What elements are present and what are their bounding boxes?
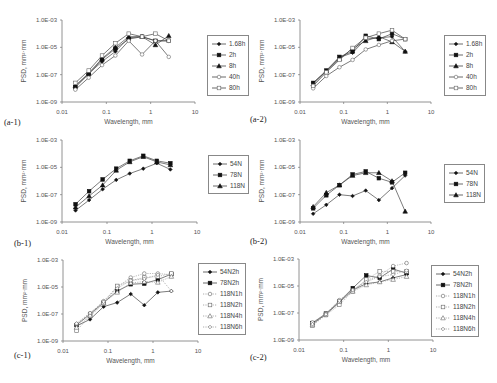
legend-label: 78N2h bbox=[453, 281, 472, 288]
legend-item: 78N2h bbox=[435, 279, 475, 290]
circle-marker-icon bbox=[87, 76, 91, 80]
legend-swatch-icon bbox=[435, 270, 451, 278]
x-tick-label: 10 bbox=[428, 109, 435, 115]
x-tick-label: 1 bbox=[151, 348, 155, 354]
legend-swatch-icon bbox=[202, 301, 218, 309]
square-marker-icon bbox=[441, 305, 445, 309]
legend-label: 54N bbox=[466, 169, 478, 176]
legend-label: 80h bbox=[229, 84, 240, 91]
legend: 54N2h78N2h118N1h118N2h118N4h118N6h bbox=[431, 265, 479, 337]
legend-label: 118N4h bbox=[220, 312, 242, 319]
circle-marker-icon bbox=[324, 74, 328, 78]
square-marker-icon bbox=[390, 32, 394, 36]
series-118N bbox=[311, 170, 408, 213]
square-marker-icon bbox=[454, 53, 458, 57]
chart-panel-b-2: 1.0E-031.0E-051.0E-071.0E-090.010.1110Wa… bbox=[248, 125, 496, 250]
legend: 54N2h78N2h118N1h118N2h118N4h118N6h bbox=[198, 263, 246, 335]
x-tick-label: 1 bbox=[386, 109, 390, 115]
circle-marker-icon bbox=[74, 88, 78, 92]
legend-swatch-icon bbox=[448, 169, 464, 177]
legend-label: 118N2h bbox=[220, 301, 242, 308]
square-marker-icon bbox=[351, 46, 355, 50]
square-marker-icon bbox=[324, 70, 328, 74]
legend-item: 118N4h bbox=[202, 310, 242, 321]
circle-marker-icon bbox=[351, 58, 355, 62]
legend-swatch-icon bbox=[448, 51, 464, 59]
legend-item: 118N bbox=[212, 180, 245, 191]
circle-marker-icon bbox=[364, 48, 368, 52]
legend-label: 54N2h bbox=[453, 270, 472, 277]
x-tick-label: 0.1 bbox=[102, 109, 111, 115]
legend-label: 2h bbox=[466, 51, 473, 58]
legend-swatch-icon bbox=[211, 51, 227, 59]
chart-panel-a-2: 1.0E-031.0E-051.0E-071.0E-090.010.1110Wa… bbox=[248, 0, 496, 125]
legend-label: 2h bbox=[229, 51, 236, 58]
circle-marker-icon bbox=[441, 294, 445, 298]
legend-swatch-icon bbox=[448, 62, 464, 70]
legend-swatch-icon bbox=[448, 180, 464, 188]
triangle-marker-icon bbox=[324, 190, 329, 194]
y-tick-label: 1.0E-09 bbox=[273, 337, 295, 343]
diamond-marker-icon bbox=[208, 325, 212, 329]
y-tick-label: 1.0E-07 bbox=[273, 310, 295, 316]
circle-marker-icon bbox=[217, 75, 221, 79]
legend-swatch-icon bbox=[435, 325, 451, 333]
legend-label: 80h bbox=[466, 84, 477, 91]
circle-marker-icon bbox=[377, 43, 381, 47]
legend-swatch-icon bbox=[435, 292, 451, 300]
legend-label: 54N bbox=[230, 160, 242, 167]
legend-label: 78N bbox=[230, 171, 242, 178]
legend-label: 1.68h bbox=[229, 40, 245, 47]
legend-item: 118N2h bbox=[435, 301, 475, 312]
legend-swatch-icon bbox=[448, 191, 464, 199]
diamond-marker-icon bbox=[208, 270, 212, 274]
chart-panel-b-1: 1.0E-031.0E-051.0E-071.0E-090.010.1110Wa… bbox=[0, 125, 248, 250]
panel-label: (a-2) bbox=[250, 114, 267, 124]
square-marker-icon bbox=[311, 84, 315, 88]
legend-label: 118N bbox=[230, 182, 245, 189]
series-54N2h bbox=[75, 289, 173, 327]
legend-swatch-icon bbox=[202, 290, 218, 298]
legend-label: 118N1h bbox=[453, 292, 475, 299]
legend-item: 54N bbox=[448, 167, 481, 178]
legend-swatch-icon bbox=[211, 40, 227, 48]
x-tick-label: 0.01 bbox=[294, 229, 306, 235]
y-tick-label: 1.0E-03 bbox=[36, 17, 58, 23]
legend-item: 40h bbox=[211, 71, 245, 82]
x-tick-label: 10 bbox=[192, 109, 199, 115]
legend-swatch-icon bbox=[448, 40, 464, 48]
diamond-marker-icon bbox=[441, 327, 445, 331]
legend-item: 80h bbox=[448, 82, 482, 93]
legend-item: 118N6h bbox=[202, 321, 242, 332]
circle-marker-icon bbox=[154, 39, 158, 43]
legend-item: 78N bbox=[212, 169, 245, 180]
square-marker-icon bbox=[87, 189, 91, 193]
square-marker-icon bbox=[441, 283, 445, 287]
circle-marker-icon bbox=[140, 53, 144, 57]
legend-item: 2h bbox=[448, 49, 482, 60]
x-tick-label: 1 bbox=[150, 229, 154, 235]
triangle-marker-icon bbox=[166, 33, 171, 37]
y-axis-title: PSD, mm²·mm bbox=[20, 40, 27, 83]
x-axis-title: Wavelength, mm bbox=[342, 356, 391, 364]
square-marker-icon bbox=[208, 281, 212, 285]
diamond-marker-icon bbox=[115, 301, 119, 305]
legend-item: 54N2h bbox=[435, 268, 475, 279]
legend-label: 118N4h bbox=[453, 314, 475, 321]
y-tick-label: 1.0E-09 bbox=[36, 219, 58, 225]
legend: 54N78N118N bbox=[444, 164, 485, 203]
panel-label: (c-1) bbox=[14, 350, 31, 360]
y-tick-label: 1.0E-07 bbox=[36, 72, 58, 78]
y-axis-title: PSD, mm²·mm bbox=[21, 279, 28, 322]
x-tick-label: 0.01 bbox=[294, 109, 306, 115]
circle-marker-icon bbox=[127, 39, 131, 43]
x-tick-label: 1 bbox=[387, 347, 391, 353]
square-marker-icon bbox=[377, 32, 381, 36]
legend-item: 40h bbox=[448, 71, 482, 82]
x-tick-label: 10 bbox=[194, 229, 201, 235]
diamond-marker-icon bbox=[351, 194, 355, 198]
legend-label: 78N bbox=[466, 180, 478, 187]
y-axis-title: PSD, mm²·mm bbox=[257, 278, 264, 321]
square-marker-icon bbox=[101, 178, 105, 182]
circle-marker-icon bbox=[405, 261, 409, 265]
